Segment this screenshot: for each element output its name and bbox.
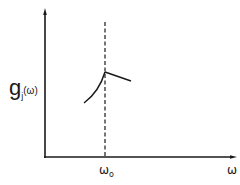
x-axis-label: ω — [227, 164, 237, 176]
y-axis-label-main: g — [9, 75, 21, 100]
x-tick-subscript: o — [109, 170, 114, 179]
rising-curve — [84, 72, 105, 103]
x-tick-main: ω — [99, 163, 109, 177]
decreasing-line — [105, 72, 131, 81]
y-axis-label: gj(ω) — [9, 77, 38, 99]
x-tick-omega-o: ωo — [99, 164, 114, 176]
y-axis-arrow-icon — [43, 8, 47, 15]
x-axis-arrow-icon — [230, 155, 237, 159]
y-axis-label-argument: (ω) — [23, 85, 37, 96]
